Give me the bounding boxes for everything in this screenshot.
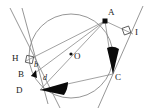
point-label-C: C [115,73,121,82]
point-label-H: H [12,54,19,63]
point-marker-A [103,19,108,24]
filled-angle-marker-C [107,47,119,74]
point-label-O: O [74,52,81,61]
point-label-D: D [16,86,23,95]
point-marker-O [69,52,72,55]
geometry-diagram: A I C O H B D b d [0,0,149,112]
point-label-B: B [18,70,24,79]
point-label-A: A [108,8,115,17]
main-circle [29,14,113,98]
angle-label-b: b [34,60,38,69]
angle-label-d: d [43,73,47,82]
segment-A-H [26,21,105,61]
segment-A-B [31,21,105,76]
point-label-I: I [135,28,138,37]
right-angle-marker-I [122,26,131,35]
segment-A-D [40,21,105,90]
